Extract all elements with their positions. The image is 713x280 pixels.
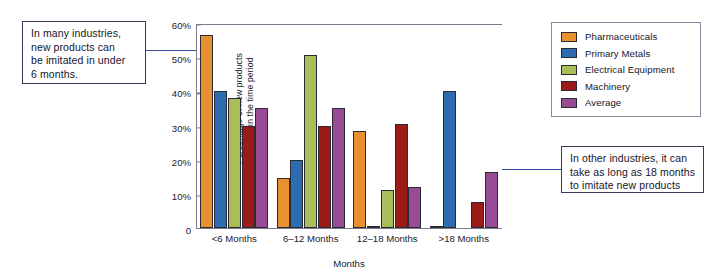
- bar-group: [200, 25, 268, 228]
- bar[interactable]: [443, 91, 456, 228]
- callout-right-line-3: to imitate new products: [570, 179, 696, 193]
- bar[interactable]: [228, 98, 241, 228]
- bar[interactable]: [255, 108, 268, 228]
- y-axis-tick-label: 40%: [151, 88, 197, 99]
- legend-swatch-icon: [561, 32, 577, 42]
- y-axis-tick-label: 50%: [151, 54, 197, 65]
- legend-item[interactable]: Electrical Equipment: [561, 62, 694, 77]
- legend-item[interactable]: Average: [561, 95, 694, 110]
- legend-item[interactable]: Machinery: [561, 79, 694, 94]
- bar[interactable]: [367, 226, 380, 228]
- callout-left-line-1: In many industries,: [31, 27, 138, 41]
- legend-swatch-icon: [561, 48, 577, 58]
- plot-top-border: [196, 24, 502, 25]
- bar[interactable]: [353, 131, 366, 228]
- callout-left-industries: In many industries, new products can be …: [22, 21, 146, 84]
- callout-left-line-2: new products can: [31, 41, 138, 55]
- legend-item-label: Machinery: [585, 81, 630, 92]
- bar-group: [353, 25, 421, 228]
- y-axis-tick-label: 30%: [151, 122, 197, 133]
- legend-item-label: Average: [585, 97, 621, 108]
- x-axis-tick-label: >18 Months: [439, 233, 489, 244]
- bar[interactable]: [318, 126, 331, 229]
- legend-swatch-icon: [561, 81, 577, 91]
- x-axis-tick-label: <6 Months: [212, 233, 257, 244]
- bar[interactable]: [395, 124, 408, 228]
- callout-left-line-3: be imitated in under: [31, 54, 138, 68]
- y-axis-tick-label: 0: [151, 225, 197, 236]
- bar[interactable]: [290, 160, 303, 228]
- callout-right-industries: In other industries, it can take as long…: [561, 146, 704, 193]
- bar[interactable]: [485, 172, 498, 228]
- bar[interactable]: [381, 190, 394, 228]
- callout-left-line-4: 6 months.: [31, 68, 138, 82]
- legend-item-label: Primary Metals: [585, 48, 650, 59]
- bar[interactable]: [471, 202, 484, 228]
- chart-plot-area: Percentage of new products imitated in t…: [196, 24, 502, 229]
- legend-item[interactable]: Pharmaceuticals: [561, 29, 694, 44]
- bar-group: [430, 25, 498, 228]
- legend-swatch-icon: [561, 65, 577, 75]
- y-axis-tick-label: 60%: [151, 20, 197, 31]
- bar[interactable]: [304, 55, 317, 228]
- bar[interactable]: [332, 108, 345, 228]
- legend-item[interactable]: Primary Metals: [561, 46, 694, 61]
- bar[interactable]: [277, 178, 290, 228]
- bar[interactable]: [214, 91, 227, 228]
- x-axis-tick-label: 12–18 Months: [357, 233, 418, 244]
- x-axis-title: Months: [196, 258, 502, 269]
- bar[interactable]: [200, 35, 213, 228]
- legend-item-label: Electrical Equipment: [585, 64, 674, 75]
- y-axis-tick-label: 10%: [151, 190, 197, 201]
- legend-swatch-icon: [561, 98, 577, 108]
- bar[interactable]: [408, 187, 421, 228]
- bar[interactable]: [242, 126, 255, 229]
- callout-right-line-2: take as long as 18 months: [570, 166, 696, 180]
- bar[interactable]: [430, 226, 443, 228]
- bar-group: [277, 25, 345, 228]
- x-axis-tick-label: 6–12 Months: [283, 233, 338, 244]
- legend-item-label: Pharmaceuticals: [585, 31, 657, 42]
- chart-legend: PharmaceuticalsPrimary MetalsElectrical …: [551, 22, 701, 117]
- callout-right-line-1: In other industries, it can: [570, 152, 696, 166]
- y-axis-tick-label: 20%: [151, 156, 197, 167]
